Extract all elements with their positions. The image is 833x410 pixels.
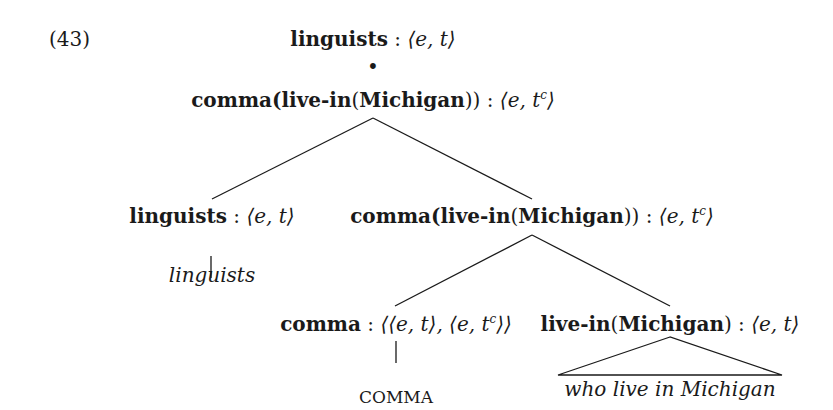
- tree-branches: [0, 0, 833, 410]
